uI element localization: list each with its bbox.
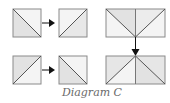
arrow-down-icon [132,37,140,56]
arrow-right-icon [42,19,55,27]
rect-2 [106,56,165,84]
square-2 [59,9,87,37]
arrow-right-icon [42,66,55,74]
diagram-caption: Diagram C [0,86,170,99]
rect-1 [106,9,165,37]
square-3 [13,56,41,84]
square-4 [59,56,87,84]
square-1 [13,9,41,37]
